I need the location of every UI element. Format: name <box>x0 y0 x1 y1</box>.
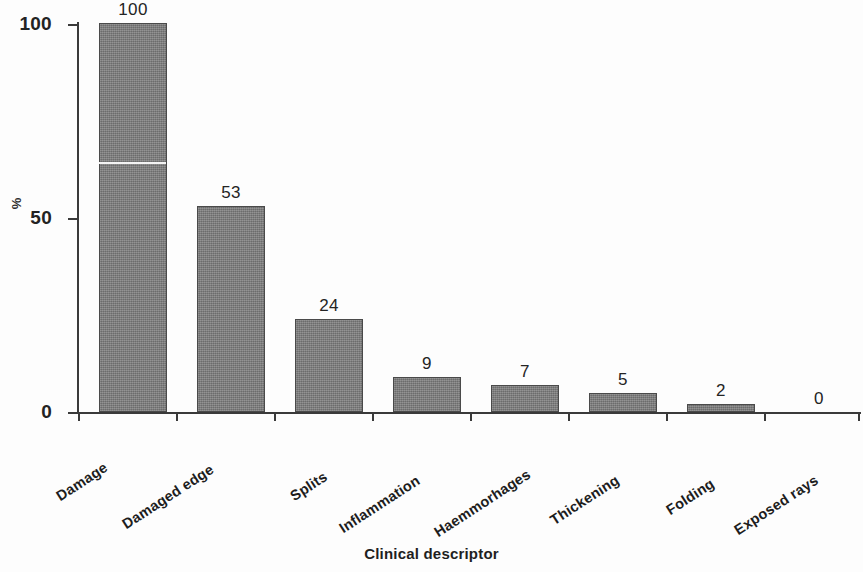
x-axis-tick-4 <box>470 413 472 421</box>
bar-value-damage: 100 <box>99 0 167 20</box>
bar-thickening <box>589 393 657 412</box>
x-axis-category-label-damage: Damage <box>53 459 110 504</box>
x-axis-category-label-exposed-rays: Exposed rays <box>731 472 821 538</box>
x-axis-category-label-splits: Splits <box>287 468 330 504</box>
bar-inflammation <box>393 377 461 412</box>
x-axis-tick-0 <box>78 413 80 421</box>
bar-damage <box>99 23 167 412</box>
bar-value-splits: 24 <box>295 296 363 316</box>
bar-value-exposed-rays: 0 <box>785 389 853 409</box>
x-axis-tick-6 <box>666 413 668 421</box>
x-axis-category-label-folding: Folding <box>663 475 717 518</box>
x-axis-category-label-damaged-edge: Damaged edge <box>119 461 216 532</box>
bar-value-thickening: 5 <box>589 370 657 390</box>
y-axis-tick-label-100: 100 <box>4 13 52 35</box>
x-axis-category-label-haemmorhages: Haemmorhages <box>431 466 533 540</box>
x-axis-category-label-inflammation: Inflammation <box>336 472 422 536</box>
x-axis-category-label-thickening: Thickening <box>547 472 622 528</box>
x-axis-tick-2 <box>274 413 276 421</box>
bar-value-inflammation: 9 <box>393 354 461 374</box>
y-axis-tick-0 <box>68 412 78 414</box>
chart-page: 100 50 0 % 100 53 24 9 7 5 <box>0 0 863 572</box>
bar-splits <box>295 319 363 412</box>
x-axis-tick-5 <box>568 413 570 421</box>
bar-folding <box>687 404 755 412</box>
bar-value-haemmorhages: 7 <box>491 362 559 382</box>
scan-line-artifact <box>99 162 166 164</box>
x-axis-title: Clinical descriptor <box>0 545 863 562</box>
bar-value-damaged-edge: 53 <box>197 183 265 203</box>
bar-damaged-edge <box>197 206 265 412</box>
bar-haemmorhages <box>491 385 559 412</box>
y-axis-tick-label-0: 0 <box>4 401 52 423</box>
y-axis-title: % <box>9 190 24 218</box>
y-axis-tick-50 <box>68 218 78 220</box>
x-axis-tick-1 <box>176 413 178 421</box>
x-axis-tick-3 <box>372 413 374 421</box>
x-axis-tick-7 <box>764 413 766 421</box>
x-axis-line <box>70 412 861 414</box>
bar-chart: 100 50 0 % 100 53 24 9 7 5 <box>0 0 863 572</box>
x-axis-tick-8 <box>858 413 860 421</box>
bar-value-folding: 2 <box>687 381 755 401</box>
y-axis-tick-100 <box>68 24 78 26</box>
